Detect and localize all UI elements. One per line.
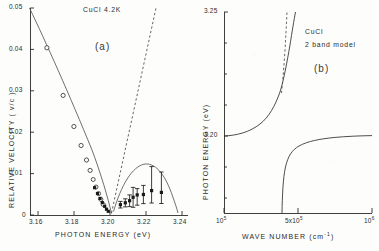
panel-b-ytick-3.25: 3.25: [204, 7, 217, 14]
panel-b-plot: [192, 0, 379, 251]
data-points-open-circles: [45, 46, 105, 207]
panel-a-xtick-3.24: 3.24: [173, 218, 186, 225]
panel-b-sample-label-line1: CuCl: [305, 28, 323, 35]
panel-b-xtick-1e5-exponent: 5: [224, 216, 227, 221]
panel-b-x-axis-title: WAVE NUMBER (cm-1): [242, 231, 334, 240]
panel-b-xtick-1e6-exponent: 6: [372, 216, 375, 221]
panel-b-xtick-1e6-base: 10: [364, 217, 372, 224]
panel-a-sample-label: CuCl 4.2K: [83, 6, 121, 13]
panel-b-xtick-1e6: 106: [364, 216, 374, 224]
panel-b-x-axis-title-exponent: -1: [324, 231, 331, 237]
panel-a-letter: (a): [95, 41, 110, 52]
panel-b-sample-label-line2: 2 band model: [305, 41, 356, 48]
panel-a-y-axis-title: RELATIVE VELOCITY ( v/c ): [8, 91, 15, 208]
panel-b-xtick-5e5: 5x105: [285, 216, 303, 224]
panel-a-ytick-0.04: 0.04: [9, 45, 22, 52]
panel-b-xtick-1e5: 105: [216, 216, 226, 224]
curve-asymptote-a: [112, 8, 157, 213]
panel-a-x-axis-title: PHOTON ENERGY (eV): [55, 231, 151, 238]
panel-a: CuCl 4.2K (a) 0.05 0.04 0.03 0.02 0.01 0…: [0, 0, 192, 251]
data-points-filled-squares-errorbars: [118, 167, 163, 208]
panel-a-x-ticks: [38, 211, 182, 215]
panel-a-xtick-3.16: 3.16: [29, 218, 42, 225]
panel-a-xtick-3.22: 3.22: [137, 218, 150, 225]
panel-b-xtick-5e5-base: 5x10: [285, 217, 300, 224]
panel-b-xtick-5e5-exponent: 5: [300, 216, 303, 221]
curve-lower-branch-a: [30, 8, 112, 214]
figure-container: CuCl 4.2K (a) 0.05 0.04 0.03 0.02 0.01 0…: [0, 0, 379, 251]
curve-upper-branch-b: [224, 12, 296, 136]
panel-b-x-ticks: [224, 208, 372, 213]
panel-a-xtick-3.20: 3.20: [101, 218, 114, 225]
panel-b-letter: (b): [314, 63, 329, 74]
panel-b-y-axis-title: PHOTON ENERGY (eV): [202, 104, 209, 200]
panel-a-ytick-0.05: 0.05: [9, 3, 22, 10]
curve-lower-branch-b: [282, 136, 372, 213]
panel-b: CuCl 2 band model (b) 3.25 3.20 105 5x10…: [192, 0, 379, 251]
panel-a-ytick-0: 0: [22, 211, 26, 218]
panel-b-xtick-1e5-base: 10: [216, 217, 224, 224]
panel-b-x-axis-title-main: WAVE NUMBER (cm: [242, 233, 324, 240]
panel-a-xtick-3.18: 3.18: [65, 218, 78, 225]
data-points-filled-squares-lower: [93, 186, 110, 213]
panel-b-y-ticks: [224, 12, 228, 198]
panel-a-plot: [0, 0, 192, 251]
panel-b-x-axis-title-close: ): [331, 233, 334, 240]
curve-asymptote-b: [282, 12, 288, 93]
panel-a-y-ticks: [30, 8, 34, 215]
curve-upper-branch-a: [114, 164, 179, 213]
